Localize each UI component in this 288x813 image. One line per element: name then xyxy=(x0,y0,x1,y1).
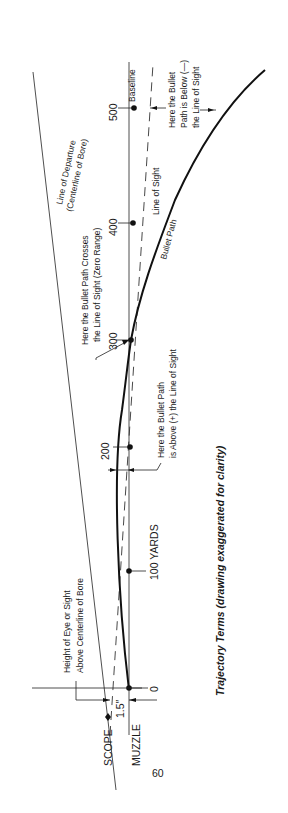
range-label-200: 200 xyxy=(99,442,111,460)
bullet-path xyxy=(117,70,265,690)
height-annotation-line2: Above Centerline of Bore xyxy=(75,578,85,673)
line-of-sight-label: Line of Sight xyxy=(151,167,161,215)
height-value: 1.5″ xyxy=(114,699,126,718)
muzzle-label: MUZZLE xyxy=(130,724,142,766)
range-ticks xyxy=(113,105,148,691)
range-label-400: 400 xyxy=(107,218,119,236)
range-label-300: 300 xyxy=(107,332,119,350)
range-label-500: 500 xyxy=(107,103,119,121)
zero-range-annotation-line1: Here the Bullet Path Crosses xyxy=(80,235,90,345)
page-number: 60 xyxy=(152,767,164,779)
range-label-0: 0 xyxy=(148,686,160,692)
above-annotation-line2: is Above (+) the Line of Sight xyxy=(168,348,178,458)
below-annotation-line1: Here the Bullet xyxy=(167,71,177,128)
above-leader xyxy=(108,463,161,470)
scope-marker xyxy=(105,713,111,721)
zero-range-annotation-line2: the Line of Sight (Zero Range) xyxy=(92,227,102,342)
trajectory-diagram: 0 100 YARDS 200 300 400 500 Baseline Lin… xyxy=(0,0,288,813)
scope-label: SCOPE xyxy=(102,729,114,766)
diagram-caption: Trajectory Terms (drawing exaggerated fo… xyxy=(214,445,226,696)
below-annotation-line3: the Line of Sight xyxy=(191,66,201,128)
above-annotation-line1: Here the Bullet Path xyxy=(156,382,166,458)
range-label-100: 100 YARDS xyxy=(148,524,160,580)
baseline-label: Baseline xyxy=(127,69,137,102)
line-of-sight xyxy=(110,64,153,735)
below-annotation-line2: Path is Below (—) xyxy=(179,60,189,128)
height-annotation-line1: Height of Eye or Sight xyxy=(62,590,72,673)
